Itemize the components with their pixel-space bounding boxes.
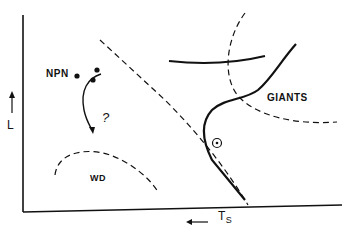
npn-evolution-arrow: [83, 74, 101, 130]
x-axis: [23, 205, 342, 212]
dashed-diagonal-boundary: [100, 40, 248, 205]
x-axis-arrow-icon: [186, 219, 208, 225]
x-axis-label-subscript: S: [226, 215, 233, 225]
diagram-graphics: [0, 0, 350, 238]
wd-dashed-boundary: [55, 152, 158, 192]
wd-label: WD: [90, 173, 106, 183]
giants-dashed-boundary: [228, 13, 337, 123]
npn-label: NPN: [46, 68, 69, 79]
giants-label: GIANTS: [267, 92, 308, 103]
solid-evolution-track: [204, 44, 296, 200]
hr-diagram: NPN GIANTS WD ? L TS: [0, 0, 350, 238]
y-axis-arrow-icon: [9, 91, 15, 113]
y-axis-label: L: [7, 118, 14, 132]
npn-dot-icon: [74, 73, 79, 78]
x-axis-label-main: T: [218, 209, 226, 223]
upper-solid-branch: [169, 56, 265, 63]
x-axis-label: TS: [218, 209, 232, 225]
arrow-head-icon: [89, 127, 95, 134]
question-mark-label: ?: [102, 110, 110, 125]
sun-icon: [213, 139, 222, 148]
npn-track-dot-icon: [94, 67, 99, 72]
